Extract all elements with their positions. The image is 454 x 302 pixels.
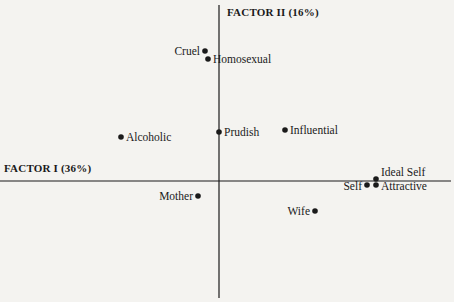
factor-scatter-chart: FACTOR I (36%) FACTOR II (16%) CruelHomo… [0,0,454,302]
point-label: Mother [159,190,193,202]
data-point: Alcoholic [118,131,171,143]
data-point: Self [343,180,369,192]
data-point: Homosexual [205,53,271,65]
point-label: Self [343,180,362,192]
point-marker [202,48,208,54]
point-marker [373,176,379,182]
point-label: Homosexual [213,53,271,65]
point-marker [312,208,318,214]
data-point: Influential [282,124,338,136]
point-marker [118,134,124,140]
x-axis-label: FACTOR I (36%) [4,162,91,175]
point-label: Wife [287,205,310,217]
data-point: Prudish [216,126,259,138]
point-marker [195,193,201,199]
point-label: Cruel [174,45,200,57]
point-marker [282,127,288,133]
point-label: Influential [290,124,338,136]
point-marker [216,129,222,135]
y-axis-label: FACTOR II (16%) [227,6,319,19]
data-point: Mother [159,190,201,202]
point-label: Attractive [381,180,427,192]
point-marker [364,182,370,188]
point-marker [373,182,379,188]
data-point: Cruel [174,45,207,57]
chart-canvas: FACTOR I (36%) FACTOR II (16%) CruelHomo… [0,0,454,302]
data-points: CruelHomosexualAlcoholicPrudishInfluenti… [118,45,427,217]
point-label: Ideal Self [381,166,426,178]
point-label: Prudish [224,126,259,138]
data-point: Wife [287,205,317,217]
point-marker [205,56,211,62]
point-label: Alcoholic [126,131,171,143]
data-point: Attractive [373,180,427,192]
